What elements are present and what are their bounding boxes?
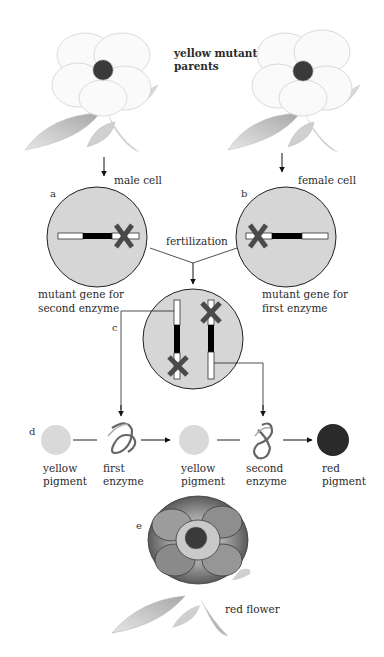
diagram-graphics (0, 0, 384, 657)
step1-line1: yellow (43, 462, 77, 475)
letter-b: b (241, 188, 247, 199)
female-cell-label: female cell (298, 174, 356, 187)
cell-b (236, 187, 336, 287)
step5-line1: red (322, 462, 340, 475)
cell-b-caption-line1: mutant gene for (262, 288, 348, 301)
second-enzyme-icon (254, 424, 272, 459)
cell-c (143, 289, 243, 389)
yellow-pigment-2 (179, 425, 209, 455)
parents-label-line2: parents (174, 60, 219, 73)
cell-a-caption-line1: mutant gene for (38, 288, 124, 301)
step1-line2: pigment (43, 475, 87, 488)
step5-line2: pigment (322, 475, 366, 488)
letter-e: e (136, 520, 142, 531)
parents-label-line1: yellow mutant (174, 47, 257, 60)
letter-c: c (112, 322, 118, 333)
male-cell-label: male cell (114, 174, 162, 187)
step2-line1: first (103, 462, 125, 475)
cell-b-caption-line2: first enzyme (262, 302, 328, 315)
cell-a-caption-line2: second enzyme (38, 302, 119, 315)
step3-line2: pigment (181, 475, 225, 488)
pathway (41, 423, 349, 458)
left-parent-flower (25, 33, 158, 152)
red-flower-label: red flower (225, 603, 280, 616)
red-pigment (317, 424, 349, 456)
step4-line1: second (246, 462, 283, 475)
letter-d: d (29, 426, 35, 437)
yellow-pigment-1 (41, 425, 71, 455)
letter-a: a (50, 188, 56, 199)
first-enzyme-icon (108, 423, 135, 453)
fertilization-label: fertilization (166, 235, 228, 248)
cell-a (47, 187, 147, 287)
step2-line2: enzyme (103, 475, 144, 488)
step4-line2: enzyme (246, 475, 287, 488)
step3-line1: yellow (181, 462, 215, 475)
